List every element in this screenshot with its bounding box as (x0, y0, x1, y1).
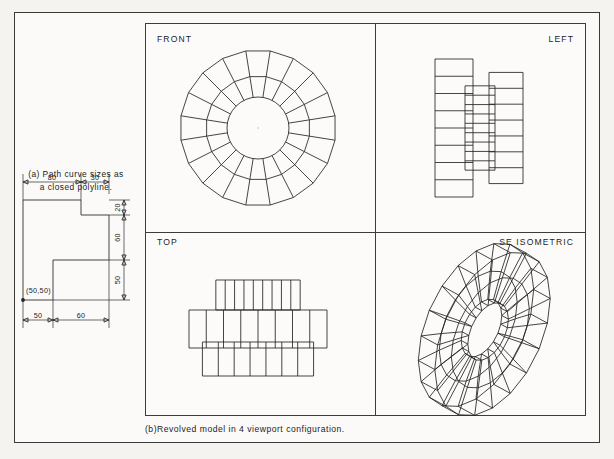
front-inner-spoke (234, 82, 244, 101)
front-outer-spoke (295, 73, 313, 91)
iso-facet-edge (502, 373, 510, 393)
iso-facet-edge (462, 332, 469, 336)
iso-facet-edge (513, 253, 526, 278)
dim-right-60: 60 (113, 233, 122, 242)
front-outer-spoke (203, 165, 221, 183)
origin-coordinate-label: (50,50) (26, 286, 51, 295)
viewport-frame: FRONT LEFT TOP SE ISOMETRIC (145, 23, 586, 416)
iso-facet-edge (502, 316, 509, 320)
front-inner-spoke (286, 142, 305, 152)
iso-facet-edge (501, 324, 508, 328)
dim-bottom-60: 60 (77, 311, 86, 320)
iso-facet-edge (513, 359, 526, 373)
front-inner-spoke (286, 104, 305, 114)
left-band-outline (489, 72, 523, 183)
iso-facet-edge (439, 340, 461, 350)
iso-facet-edge (459, 357, 472, 382)
iso-facet-edge (482, 302, 489, 306)
front-viewport-drawing (146, 24, 375, 232)
dim-right-50: 50 (113, 276, 122, 285)
top-viewport-drawing (146, 233, 375, 415)
iso-facet-edge (522, 262, 539, 284)
iso-facet-edge (429, 375, 446, 397)
iso-facet-edge (451, 344, 468, 357)
iso-facet-edge (421, 336, 438, 345)
front-inner-spoke (250, 159, 253, 180)
front-outer-spoke (189, 93, 212, 105)
iso-facet-edge (482, 354, 489, 358)
front-outer-spoke (304, 152, 327, 164)
iso-facet-edge (438, 371, 454, 391)
front-outer-spoke (223, 59, 235, 82)
figure-a-profile-drawing: 80 30 (14, 160, 144, 390)
front-outer-spoke (246, 179, 250, 205)
front-inner-spoke (234, 156, 244, 175)
iso-facet-edge (505, 284, 522, 306)
figure-a-caption-line2: a closed polyline. (8, 181, 144, 194)
iso-facet-edge (507, 325, 527, 327)
iso-facet-edge (458, 266, 466, 286)
front-outer-spoke (282, 59, 294, 82)
top-band-outline (216, 280, 300, 310)
iso-facet-edge (458, 266, 475, 275)
iso-facet-edge (446, 382, 459, 407)
front-outer-spoke (309, 136, 335, 140)
front-inner-spoke (263, 77, 266, 98)
se-isometric-viewport-drawing (376, 233, 586, 415)
iso-facet-edge (476, 251, 493, 260)
front-outer-spoke (304, 93, 327, 105)
iso-ring-3 (451, 278, 529, 388)
front-outer-spoke (181, 116, 207, 120)
front-outer-spoke (189, 152, 212, 164)
figure-b-caption: (b)Revolved model in 4 viewport configur… (145, 424, 345, 434)
iso-facet-edge (527, 323, 547, 325)
iso-ring-0 (418, 244, 533, 407)
front-outer-spoke (223, 174, 235, 197)
dim-bottom-50: 50 (34, 311, 43, 320)
front-inner-spoke (289, 120, 310, 123)
iso-facet-edge (515, 268, 531, 288)
iso-facet-edge (478, 276, 481, 302)
iso-facet-edge (510, 364, 527, 373)
front-inner-spoke (221, 91, 236, 106)
iso-facet-edge (510, 244, 527, 253)
iso-facet-edge (531, 314, 548, 323)
front-inner-spoke (207, 120, 228, 123)
front-outer-spoke (282, 174, 294, 197)
iso-facet-edge (488, 349, 495, 353)
front-inner-spoke (207, 133, 228, 136)
iso-facet-edge (442, 381, 455, 406)
iso-facet-edge (442, 406, 459, 415)
front-outer-spoke (309, 116, 335, 120)
iso-facet-edge (466, 286, 475, 307)
front-outer-spoke (181, 136, 207, 140)
iso-facet-edge (441, 332, 462, 334)
iso-facet-edge (421, 334, 441, 336)
front-inner-spoke (280, 150, 295, 165)
front-inner-spoke (280, 91, 295, 106)
iso-facet-edge (442, 286, 455, 300)
iso-facet-edge (461, 340, 468, 344)
iso-ring-1 (435, 253, 550, 416)
front-inner-spoke (250, 77, 253, 98)
figure-a-caption-line1: (a) Path curve sizes as (8, 168, 144, 181)
front-inner-spoke (272, 82, 282, 101)
front-outer-spoke (295, 165, 313, 183)
iso-facet-edge (534, 289, 551, 298)
dim-right-20: 20 (113, 203, 122, 212)
iso-facet-edge (500, 345, 513, 359)
front-outer-spoke (203, 73, 221, 91)
front-inner-spoke (272, 156, 282, 175)
front-outer-spoke (266, 51, 270, 77)
figure-page: 80 30 (0, 0, 614, 459)
front-inner-spoke (221, 150, 236, 165)
front-center-mark (257, 127, 258, 128)
front-inner-spoke (289, 133, 310, 136)
iso-facet-edge (447, 353, 465, 375)
front-outer-spoke (266, 179, 270, 205)
iso-facet-edge (510, 253, 523, 278)
iso-facet-edge (498, 277, 510, 302)
iso-facet-edge (442, 286, 459, 295)
iso-facet-edge (498, 333, 510, 336)
iso-facet-edge (476, 399, 493, 408)
